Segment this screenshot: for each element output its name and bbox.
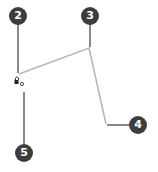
callout-badge-3: 3 [81,7,99,25]
part-outline [19,48,106,124]
callout-badge-5: 5 [15,144,33,162]
callout-badge-2: 2 [9,7,27,25]
callout-badge-4: 4 [129,116,147,134]
connector-icon [15,77,24,86]
